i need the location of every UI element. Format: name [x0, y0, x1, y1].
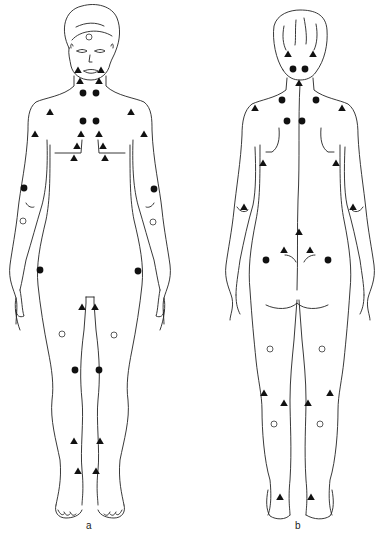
triangle-icon	[260, 390, 268, 397]
triangle-icon	[307, 494, 315, 501]
open-circle-icon	[271, 421, 277, 427]
marker-layer	[20, 34, 357, 500]
open-circle-icon	[319, 346, 325, 352]
panel-label-a: a	[86, 520, 92, 531]
triangle-icon	[73, 143, 81, 150]
open-circle-icon	[111, 332, 117, 338]
triangle-icon	[96, 438, 104, 445]
body-diagram	[0, 0, 383, 535]
filled-circle-icon	[93, 90, 100, 97]
hand-left-a	[16, 290, 24, 317]
filled-circle-icon	[284, 118, 291, 125]
triangle-icon	[127, 109, 135, 116]
triangle-icon	[295, 80, 303, 87]
filled-circle-icon	[151, 186, 158, 193]
filled-circle-icon	[299, 118, 306, 125]
filled-circle-icon	[135, 268, 142, 275]
triangle-icon	[77, 131, 85, 138]
filled-circle-icon	[290, 66, 297, 73]
triangle-icon	[97, 67, 105, 74]
head-outline-b	[273, 10, 327, 80]
filled-circle-icon	[80, 90, 87, 97]
triangle-icon	[295, 229, 303, 236]
open-circle-icon	[150, 219, 156, 225]
filled-circle-icon	[72, 367, 79, 374]
triangle-icon	[332, 160, 340, 167]
figure-a-front-view	[10, 5, 171, 519]
triangle-icon	[284, 51, 292, 58]
filled-circle-icon	[325, 257, 332, 264]
triangle-icon	[74, 468, 82, 475]
triangle-icon	[99, 143, 107, 150]
hand-right-a	[156, 290, 164, 317]
filled-circle-icon	[80, 118, 87, 125]
spine-line	[297, 84, 300, 290]
filled-circle-icon	[37, 267, 44, 274]
triangle-icon	[140, 131, 148, 138]
open-circle-icon	[59, 331, 65, 337]
panel-label-b: b	[295, 520, 301, 531]
triangle-icon	[280, 247, 288, 254]
triangle-icon	[338, 105, 346, 112]
filled-circle-icon	[313, 97, 320, 104]
triangle-icon	[31, 131, 39, 138]
open-circle-icon	[86, 34, 92, 40]
head-outline-a	[64, 5, 119, 81]
foot-right-a	[98, 505, 125, 518]
filled-circle-icon	[21, 185, 28, 192]
triangle-icon	[276, 494, 284, 501]
triangle-icon	[95, 78, 103, 85]
triangle-icon	[95, 131, 103, 138]
triangle-icon	[46, 109, 54, 116]
triangle-icon	[309, 51, 317, 58]
triangle-icon	[240, 204, 248, 211]
triangle-icon	[70, 155, 78, 162]
filled-circle-icon	[263, 257, 270, 264]
triangle-icon	[326, 390, 334, 397]
filled-circle-icon	[93, 118, 100, 125]
triangle-icon	[70, 438, 78, 445]
figure-b-back-view	[226, 10, 375, 519]
eye-icon	[95, 50, 105, 53]
triangle-icon	[251, 105, 259, 112]
triangle-icon	[92, 468, 100, 475]
triangle-icon	[306, 247, 314, 254]
triangle-icon	[101, 155, 109, 162]
triangle-icon	[78, 304, 86, 311]
open-circle-icon	[20, 218, 26, 224]
triangle-icon	[280, 400, 288, 407]
filled-circle-icon	[96, 367, 103, 374]
filled-circle-icon	[279, 97, 286, 104]
triangle-icon	[349, 204, 357, 211]
open-circle-icon	[317, 421, 323, 427]
filled-circle-icon	[302, 66, 309, 73]
triangle-icon	[91, 304, 99, 311]
open-circle-icon	[267, 346, 273, 352]
eye-icon	[77, 50, 87, 53]
triangle-icon	[304, 400, 312, 407]
foot-left-a	[55, 505, 82, 518]
triangle-icon	[74, 67, 82, 74]
